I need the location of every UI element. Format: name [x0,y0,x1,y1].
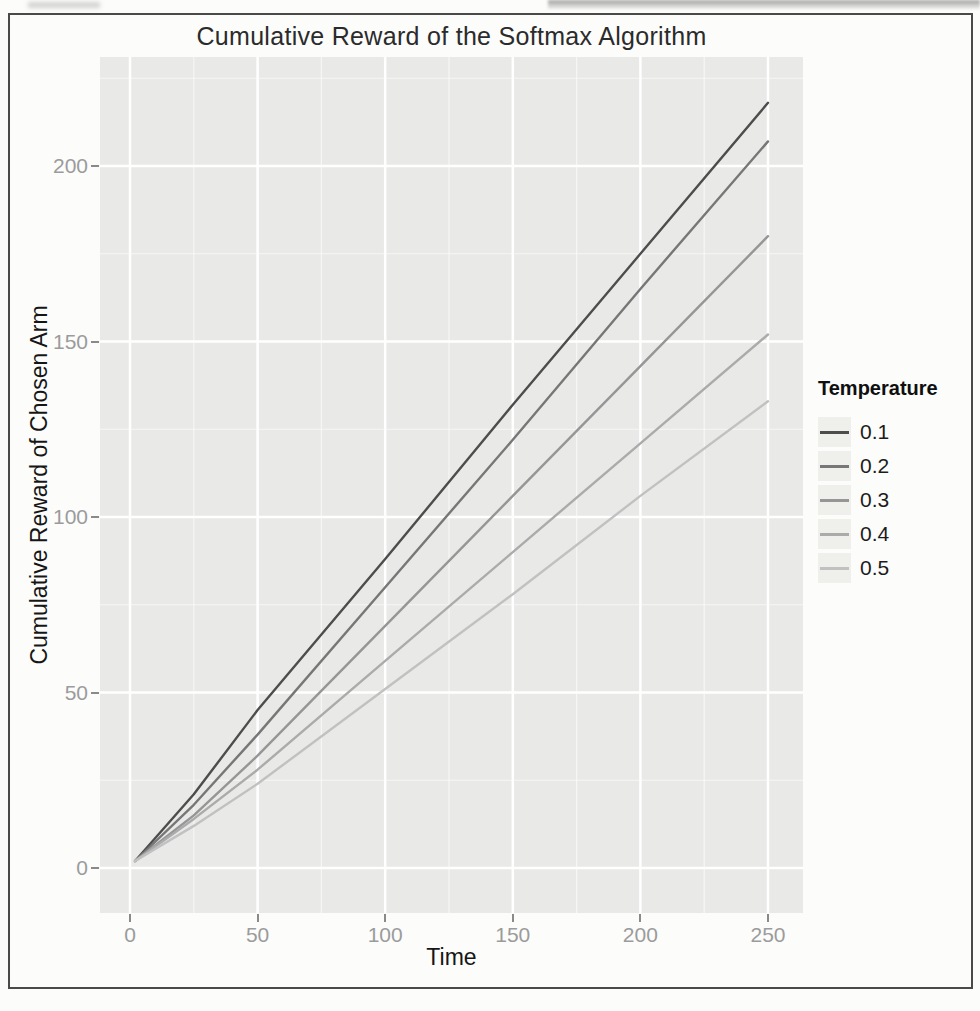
legend-entry-label: 0.5 [860,556,889,580]
y-tick-mark [91,516,99,518]
scan-artifact-top-right [548,0,980,9]
y-tick-label: 200 [30,153,88,179]
legend-entry: 0.1 [818,415,976,449]
y-tick-mark [91,867,99,869]
legend-title: Temperature [818,377,976,400]
series-line-temperature-0.2 [135,141,768,861]
series-line-temperature-0.1 [135,103,768,861]
y-axis-title: Cumulative Reward of Chosen Arm [26,305,53,664]
plot-area [100,57,803,913]
chart-title: Cumulative Reward of the Softmax Algorit… [100,22,803,51]
legend: Temperature 0.10.20.30.40.5 [818,377,976,585]
legend-key-line-icon [820,499,849,502]
plot-panel [100,57,803,913]
x-axis-title: Time [100,944,803,971]
y-tick-label: 0 [30,855,88,881]
legend-entry-label: 0.1 [860,420,889,444]
x-tick-mark [767,914,769,922]
legend-key-line-icon [820,567,849,570]
legend-entry: 0.5 [818,551,976,585]
legend-entry: 0.4 [818,517,976,551]
legend-key-line-icon [820,431,849,434]
y-tick-mark [91,692,99,694]
legend-entry: 0.2 [818,449,976,483]
legend-key-swatch [818,451,851,481]
scanned-figure-page: Cumulative Reward of the Softmax Algorit… [0,0,980,1011]
x-tick-mark [257,914,259,922]
legend-entry-label: 0.4 [860,522,889,546]
x-tick-mark [512,914,514,922]
y-tick-mark [91,165,99,167]
scan-artifact-top-left [28,2,100,8]
x-tick-mark [639,914,641,922]
x-tick-mark [129,914,131,922]
legend-key-swatch [818,417,851,447]
legend-key-swatch [818,553,851,583]
legend-key-swatch [818,485,851,515]
y-tick-mark [91,341,99,343]
legend-entry: 0.3 [818,483,976,517]
legend-entry-label: 0.2 [860,454,889,478]
legend-key-line-icon [820,533,849,536]
legend-entries: 0.10.20.30.40.5 [818,415,976,585]
legend-entry-label: 0.3 [860,488,889,512]
y-tick-label: 50 [30,680,88,706]
x-tick-mark [384,914,386,922]
legend-key-swatch [818,519,851,549]
series-line-temperature-0.3 [135,236,768,861]
legend-key-line-icon [820,465,849,468]
